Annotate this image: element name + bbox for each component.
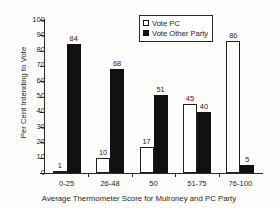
- bar-value-label: 45: [186, 94, 194, 103]
- y-axis-tick-label: 10: [23, 152, 45, 161]
- bar-vote-other-party: 84: [67, 44, 81, 173]
- bar-value-label: 17: [142, 137, 150, 146]
- x-axis-tick-mark: [175, 173, 176, 177]
- bar-value-label: 10: [99, 148, 107, 157]
- x-axis-line: [44, 173, 263, 174]
- bar-value-label: 84: [70, 34, 78, 43]
- y-axis-tick-label: 30: [23, 122, 45, 131]
- bar-value-label: 40: [200, 102, 208, 111]
- legend-label: Vote Other Party: [152, 29, 208, 38]
- bar-vote-other-party: 5: [240, 165, 254, 173]
- bar-vote-other-party: 40: [197, 112, 211, 173]
- plot-area: 184106817514540865: [45, 20, 262, 173]
- y-axis-ticks: 1009080706050403020100: [17, 20, 45, 173]
- bar-vote-other-party: 51: [154, 95, 168, 173]
- bar-vote-other-party: 68: [110, 69, 124, 173]
- y-axis-tick-label: 80: [23, 45, 45, 54]
- bar-value-label: 68: [113, 59, 121, 68]
- x-axis-title: Average Thermometer Score for Mulroney a…: [0, 194, 278, 203]
- x-axis-tick-mark: [88, 173, 89, 177]
- bar-value-label: 5: [245, 155, 249, 164]
- x-axis-tick-mark: [219, 173, 220, 177]
- x-axis-tick-mark: [132, 173, 133, 177]
- bar-vote-pc: 1: [53, 171, 67, 173]
- y-axis-tick-label: 50: [23, 91, 45, 100]
- legend-item: Vote PC: [143, 18, 208, 28]
- chart-legend: Vote PCVote Other Party: [139, 15, 213, 42]
- y-axis-tick-label: 100: [23, 15, 45, 24]
- bar-vote-pc: 45: [183, 104, 197, 173]
- y-axis-tick-label: 70: [23, 60, 45, 69]
- bar-vote-pc: 86: [226, 41, 240, 173]
- legend-swatch-vote-pc: [143, 20, 149, 26]
- legend-label: Vote PC: [152, 19, 180, 28]
- y-axis-tick-label: 0: [23, 168, 45, 177]
- bar-value-label: 51: [156, 85, 164, 94]
- cropped-header-text-sliver: [0, 0, 278, 9]
- y-axis-tick-label: 20: [23, 137, 45, 146]
- y-axis-tick-label: 40: [23, 106, 45, 115]
- x-axis-category-label: 76-100: [213, 179, 267, 188]
- bar-value-label: 86: [229, 31, 237, 40]
- bar-vote-pc: 17: [140, 147, 154, 173]
- bar-value-label: 1: [58, 161, 62, 170]
- y-axis-tick-label: 60: [23, 76, 45, 85]
- legend-swatch-vote-other-party: [143, 30, 149, 36]
- chart-figure: Per Cent Intending to Vote 1009080706050…: [0, 0, 278, 209]
- y-axis-tick-label: 90: [23, 30, 45, 39]
- bar-vote-pc: 10: [96, 158, 110, 173]
- legend-item: Vote Other Party: [143, 28, 208, 38]
